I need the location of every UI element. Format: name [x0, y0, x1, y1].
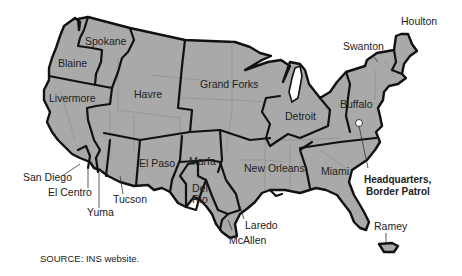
source-note: SOURCE: INS website.	[40, 253, 139, 264]
border-patrol-sector-map: Spokane Blaine Havre Grand Forks Detroit…	[0, 0, 462, 276]
label-livermore: Livermore	[49, 92, 96, 104]
ramey-island	[379, 243, 398, 252]
label-headquarters-line1: Headquarters,	[364, 174, 431, 186]
label-san-diego: San Diego	[23, 171, 72, 183]
label-mcallen: McAllen	[229, 234, 266, 246]
label-laredo: Laredo	[245, 219, 278, 231]
label-del-rio-line2: Rio	[192, 193, 208, 205]
label-swanton: Swanton	[343, 40, 384, 52]
label-headquarters-line2: Border Patrol	[366, 186, 430, 198]
label-detroit: Detroit	[285, 110, 316, 122]
label-havre: Havre	[134, 88, 162, 100]
label-new-orleans: New Orleans	[244, 162, 305, 174]
label-ramey: Ramey	[374, 220, 407, 232]
label-spokane: Spokane	[85, 35, 126, 47]
label-el-centro: El Centro	[48, 186, 92, 198]
label-houlton: Houlton	[401, 15, 437, 27]
label-marfa: Marfa	[189, 155, 216, 167]
label-yuma: Yuma	[87, 206, 114, 218]
label-grand-forks: Grand Forks	[200, 78, 258, 90]
headquarters-marker-icon	[356, 120, 363, 127]
label-miami: Miami	[321, 165, 349, 177]
label-tucson: Tucson	[113, 193, 147, 205]
label-el-paso: El Paso	[139, 157, 175, 169]
label-buffalo: Buffalo	[340, 98, 373, 110]
label-blaine: Blaine	[58, 57, 87, 69]
